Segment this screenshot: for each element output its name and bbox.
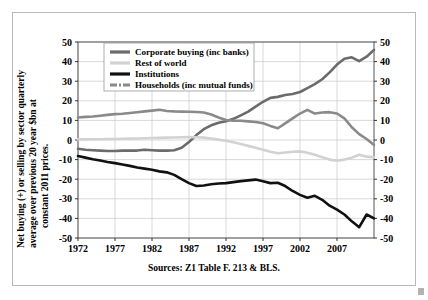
y-tick-label-left: 20 — [62, 95, 72, 106]
source-caption: Sources: Z1 Table F. 213 & BLS. — [148, 263, 280, 273]
y-tick-label-right: 20 — [380, 95, 390, 106]
y-axis-title-line3: constant 2011 prices. — [40, 144, 50, 228]
y-tick-label-left: -40 — [59, 213, 72, 224]
x-tick-label: 1977 — [105, 243, 125, 254]
y-tick-label-right: -40 — [380, 213, 393, 224]
y-tick-label-left: 40 — [62, 56, 72, 67]
x-tick-label: 1982 — [142, 243, 162, 254]
chart-legend: Corporate buying (inc banks)Rest of worl… — [104, 43, 254, 91]
x-tick-label: 2002 — [290, 243, 310, 254]
legend-label-3: Households (inc mutual funds) — [135, 80, 253, 90]
x-tick-label: 2007 — [327, 243, 347, 254]
y-axis-labels-left: 50403020100-10-20-30-40-50 — [59, 37, 72, 244]
y-axis-labels-right: 50403020100-10-20-30-40-50 — [380, 37, 393, 244]
y-tick-label-right: -50 — [380, 233, 393, 244]
y-tick-label-right: -10 — [380, 154, 393, 165]
legend-label-1: Rest of world — [135, 58, 187, 68]
y-tick-label-left: -30 — [59, 193, 72, 204]
y-tick-label-left: 50 — [62, 37, 72, 48]
y-tick-label-left: 0 — [67, 135, 72, 146]
y-tick-label-right: 50 — [380, 37, 390, 48]
y-tick-label-left: 30 — [62, 76, 72, 87]
x-axis-labels: 19721977198219871992199720022007 — [68, 243, 347, 254]
y-tick-label-right: 10 — [380, 115, 390, 126]
y-axis-title-line1: Net buying (+) or selling by sector quar… — [16, 70, 27, 248]
x-tick-label: 1987 — [179, 243, 199, 254]
y-tick-label-left: -20 — [59, 174, 72, 185]
y-tick-label-left: -50 — [59, 233, 72, 244]
x-tick-label: 1972 — [68, 243, 88, 254]
y-tick-label-right: 40 — [380, 56, 390, 67]
y-tick-label-left: 10 — [62, 115, 72, 126]
y-axis-title-line2: average over previous 20 year $bn at — [28, 98, 38, 248]
y-tick-label-right: -20 — [380, 174, 393, 185]
x-tick-label: 1997 — [253, 243, 273, 254]
chart-figure: 50403020100-10-20-30-40-50 50403020100-1… — [0, 0, 428, 300]
legend-label-2: Institutions — [135, 69, 180, 79]
y-axis-title: Net buying (+) or selling by sector quar… — [16, 70, 50, 248]
y-tick-label-right: 30 — [380, 76, 390, 87]
y-tick-label-right: 0 — [380, 135, 385, 146]
x-tick-label: 1992 — [216, 243, 236, 254]
legend-label-0: Corporate buying (inc banks) — [135, 47, 249, 57]
y-tick-label-left: -10 — [59, 154, 72, 165]
line-chart: 50403020100-10-20-30-40-50 50403020100-1… — [0, 0, 428, 300]
y-tick-label-right: -30 — [380, 193, 393, 204]
